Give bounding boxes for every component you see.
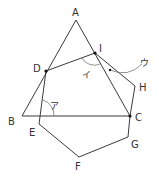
point-u-marker: [109, 69, 111, 71]
geometry-diagram: A B C D E F G H I ア イ ウ: [0, 0, 159, 183]
label-C: C: [135, 112, 142, 123]
label-F: F: [75, 161, 81, 172]
point-I: [93, 51, 96, 54]
segment-AC: [76, 20, 130, 116]
angle-label-a: ア: [50, 101, 59, 111]
label-D: D: [33, 63, 41, 74]
segment-AB: [22, 20, 76, 116]
point-C: [128, 114, 131, 117]
angle-arc-i: [82, 58, 100, 65]
angle-label-i: イ: [82, 70, 91, 80]
label-E: E: [29, 127, 35, 138]
point-D: [44, 69, 47, 72]
label-B: B: [8, 116, 15, 127]
angle-label-u: ウ: [140, 58, 149, 68]
label-G: G: [131, 139, 139, 150]
label-I: I: [99, 43, 102, 54]
pointer-u: [110, 64, 142, 73]
label-H: H: [139, 82, 147, 93]
label-A: A: [72, 7, 79, 18]
